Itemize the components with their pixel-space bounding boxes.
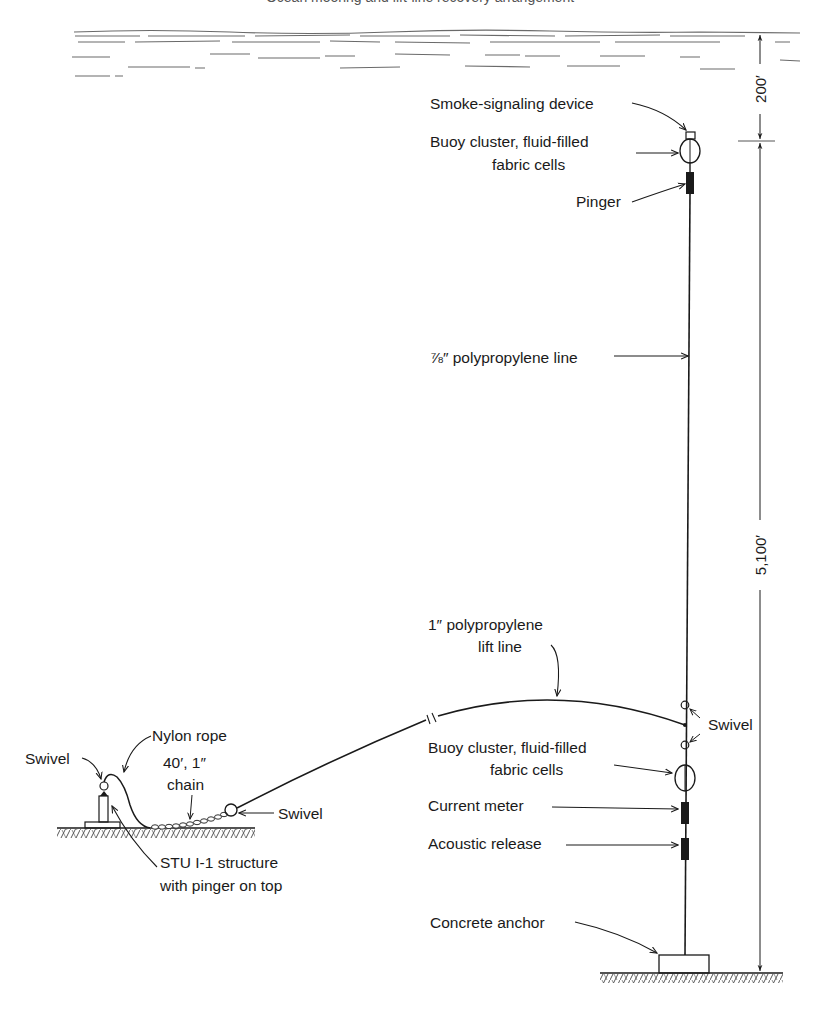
nylon-rope-label: Nylon rope (152, 727, 227, 744)
lower-buoy-label-1: Buoy cluster, fluid-filled (428, 739, 587, 756)
smoke-device-label: Smoke-signaling device (430, 95, 594, 112)
depth-dimension-5100: 5,100′ (752, 143, 769, 971)
pinger-icon (686, 172, 694, 194)
acoustic-release-label: Acoustic release (428, 835, 542, 852)
pinger-label: Pinger (576, 193, 621, 210)
lower-swivel-icon (681, 741, 689, 749)
left-swivel-label: Swivel (25, 750, 70, 767)
lift-line-label-1: 1″ polypropylene (428, 616, 543, 633)
depth-dimension-200: 200′ (738, 35, 775, 141)
chain-label-1: 40′, 1″ (163, 754, 206, 771)
acoustic-release-icon (681, 838, 689, 860)
stu-structure-icon (99, 796, 108, 822)
nylon-rope (104, 774, 150, 828)
upper-buoy-label-1: Buoy cluster, fluid-filled (430, 133, 589, 150)
lower-buoy-label-2: fabric cells (490, 761, 563, 778)
concrete-anchor-icon (659, 955, 709, 973)
chain-label-2: chain (167, 776, 204, 793)
seafloor-right (600, 973, 783, 983)
chain (152, 812, 228, 829)
dimension-5100-label: 5,100′ (752, 535, 769, 576)
current-meter-label: Current meter (428, 797, 524, 814)
left-swivel-icon (100, 782, 108, 790)
concrete-anchor-label: Concrete anchor (430, 914, 545, 931)
stu-label-2: with pinger on top (159, 877, 282, 894)
upper-buoy-label-2: fabric cells (492, 156, 565, 173)
stu-label-1: STU I-1 structure (160, 854, 278, 871)
current-meter-icon (681, 802, 689, 824)
smoke-device-icon (686, 132, 695, 139)
main-line-label: ⅞″ polypropylene line (430, 349, 578, 366)
dimension-200-label: 200′ (752, 75, 769, 103)
right-swivel-label: Swivel (708, 716, 753, 733)
stu-base-icon (85, 822, 120, 828)
upper-swivel-icon (681, 701, 689, 709)
chain-swivel-label: Swivel (278, 805, 323, 822)
cut-off-caption: Ocean mooring and lift-line recovery arr… (266, 0, 574, 5)
lift-line-label-2: lift line (478, 638, 522, 655)
mooring-diagram: Ocean mooring and lift-line recovery arr… (0, 0, 817, 1012)
chain-swivel-icon (225, 804, 237, 816)
sea-surface (72, 30, 800, 76)
